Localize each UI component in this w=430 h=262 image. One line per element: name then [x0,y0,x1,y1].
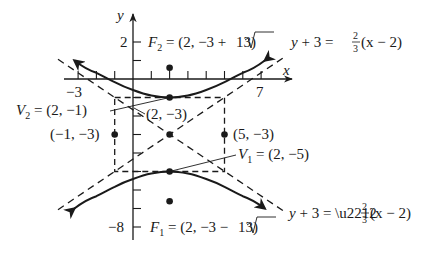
focus-f2-label: F2 = (2, −3 + 13) [147,32,274,53]
svg-text:V1 = (2, −5): V1 = (2, −5) [238,146,309,165]
svg-text:F1 = (2, −3 − 13): F1 = (2, −3 − 13) [149,219,258,238]
focus-f1-label: F1 = (2, −3 − 13) [149,217,276,238]
svg-text:y + 3 =: y + 3 = [289,34,333,50]
svg-text:F2 = (2, −3 + 13): F2 = (2, −3 + 13) [147,34,256,53]
x-axis-label: x [282,62,290,78]
x-tick-label-right: 7 [256,84,264,100]
box-point-left-label: (−1, −3) [50,126,99,143]
svg-text:(x − 2): (x − 2) [361,34,402,51]
hyperbola-graph: y x −3 7 2 −8 F2 = (2, −3 + 13) [0,0,430,262]
svg-text:(x − 2): (x − 2) [370,205,411,222]
y-tick-label-bottom: −8 [108,219,124,235]
y-axis-label: y [115,7,124,23]
frac-numerator: 2 [362,201,367,212]
frac-denominator: 3 [362,214,367,225]
center-leader [134,108,145,114]
y-ticks [133,42,141,227]
asymptote-upper-label: y + 3 = 2 3 (x − 2) [289,30,402,54]
vertex-v2-label: V2 = (2, −1) [16,102,87,121]
center-point [166,131,173,138]
center-label: (2, −3) [146,106,187,123]
vertex-v1-label: V1 = (2, −5) [238,146,309,165]
svg-text:V2 = (2, −1): V2 = (2, −1) [16,102,87,121]
box-point-right-label: (5, −3) [233,126,274,143]
focus-f2-point [166,65,173,72]
focus-f1-point [166,198,173,205]
x-tick-label-left: −3 [66,84,82,100]
points [111,65,227,205]
frac-denominator: 3 [353,43,358,54]
box-point-right [221,131,228,138]
box-point-left [111,131,118,138]
asymptote-lower-label: y + 3 = \u2212 2 3 (x − 2) [287,201,411,225]
hyperbola-figure: y x −3 7 2 −8 F2 = (2, −3 + 13) [0,0,430,262]
frac-numerator: 2 [353,30,358,41]
y-tick-label-top: 2 [120,34,128,50]
